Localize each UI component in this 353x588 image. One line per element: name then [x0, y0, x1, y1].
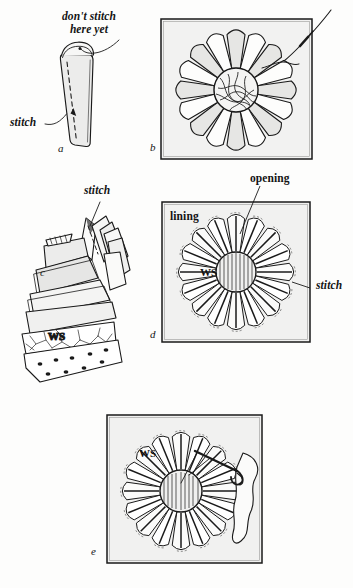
figure-page: don't stitchhere yet stitch a — [0, 0, 353, 588]
panel-b-drawing — [150, 6, 353, 172]
panel-a: don't stitchhere yet stitch a — [0, 0, 165, 172]
panel-letter-e: e — [91, 545, 96, 557]
flower-b — [176, 30, 296, 150]
label-ws-e: WS — [139, 447, 156, 459]
label-stitch-d: stitch — [316, 279, 342, 292]
panel-b: b — [150, 6, 353, 172]
panel-c-drawing: WS — [0, 182, 160, 388]
label-lining: lining — [170, 210, 199, 223]
panel-e-drawing: WS — [85, 395, 353, 585]
panel-d-drawing: WS — [140, 178, 353, 368]
label-stitch-c: stitch — [84, 184, 110, 197]
panel-letter-d: d — [150, 328, 156, 340]
label-dont-stitch-here-yet: don't stitchhere yet — [62, 10, 116, 36]
panel-e: WS e — [85, 395, 353, 585]
panel-letter-a: a — [58, 142, 64, 154]
panel-c: WS stitch c — [0, 182, 160, 388]
panel-letter-b: b — [150, 141, 156, 153]
panel-d: WS opening lining stitch d — [140, 178, 353, 368]
panel-letter-c: c — [40, 266, 45, 278]
label-stitch-a: stitch — [10, 116, 36, 129]
label-ws-d: WS — [200, 266, 217, 278]
label-ws-c: WS — [48, 330, 65, 342]
label-opening: opening — [250, 172, 290, 185]
